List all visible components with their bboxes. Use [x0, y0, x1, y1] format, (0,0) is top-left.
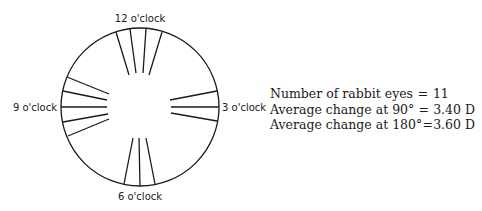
- results-summary: Number of rabbit eyes = 11 Average chang…: [270, 86, 475, 133]
- label-6-oclock: 6 o'clock: [118, 191, 162, 202]
- incision-line: [68, 119, 109, 136]
- incision-line: [139, 138, 140, 186]
- incision-line: [124, 138, 133, 184]
- incision-line: [116, 32, 129, 75]
- stat-label: Number of rabbit eyes: [270, 86, 413, 102]
- label-12-oclock: 12 o'clock: [115, 13, 166, 24]
- stat-eye-count: Number of rabbit eyes = 11: [270, 86, 475, 102]
- incision-line: [146, 138, 155, 184]
- label-9-oclock: 9 o'clock: [13, 102, 57, 113]
- incision-line: [143, 29, 146, 73]
- incision-line: [130, 29, 136, 73]
- incisions-3-oclock: [170, 91, 219, 121]
- stat-value: 11: [433, 86, 475, 102]
- label-3-oclock: 3 o'clock: [222, 102, 266, 113]
- incision-line: [171, 113, 217, 121]
- stat-equals: =: [414, 102, 433, 118]
- incision-line: [63, 91, 107, 100]
- stat-label: Average change at 90°: [270, 102, 414, 118]
- stat-change-180: Average change at 180° = 3.60 D: [270, 117, 475, 133]
- incision-line: [170, 91, 217, 100]
- incision-line: [149, 32, 162, 75]
- incisions-6-oclock: [124, 138, 155, 186]
- incisions-9-oclock: [61, 77, 109, 136]
- stat-label: Average change at 180°: [270, 117, 422, 133]
- stat-equals: =: [413, 86, 433, 102]
- stat-value: 3.60 D: [433, 117, 475, 133]
- stat-change-90: Average change at 90° = 3.40 D: [270, 102, 475, 118]
- incision-line: [67, 77, 109, 94]
- stat-equals: =: [422, 117, 433, 133]
- incisions-12-oclock: [116, 29, 162, 75]
- stat-value: 3.40 D: [433, 102, 475, 118]
- incision-line: [63, 114, 108, 122]
